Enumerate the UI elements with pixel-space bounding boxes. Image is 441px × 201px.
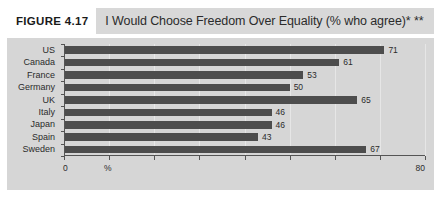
bar-row: 61 — [64, 56, 425, 68]
y-axis-tick — [61, 144, 64, 145]
y-axis-tick — [61, 119, 64, 120]
bar-row: 67 — [64, 144, 425, 156]
bar-value-label: 50 — [294, 83, 303, 92]
bar-value-label: 53 — [307, 71, 316, 80]
bar-row: 46 — [64, 119, 425, 131]
bar-row: 65 — [64, 94, 425, 106]
y-axis-category-label: Germany — [18, 83, 55, 92]
y-axis-category-label: Japan — [30, 120, 55, 129]
bar-row: 50 — [64, 81, 425, 93]
gridline — [425, 44, 426, 156]
figure-footnote — [7, 193, 434, 200]
x-axis-max-label: 80 — [416, 164, 425, 173]
bar-value-label: 61 — [343, 58, 352, 67]
y-axis-tick — [61, 44, 64, 45]
y-axis-category-label: France — [27, 71, 55, 80]
y-axis-tick — [61, 69, 64, 70]
bar-value-label: 43 — [262, 133, 271, 142]
bar — [64, 84, 290, 92]
bar — [64, 46, 384, 54]
bar — [64, 71, 303, 79]
bar-row: 43 — [64, 131, 425, 143]
figure-number-label: FIGURE 4.17 — [7, 8, 96, 34]
x-axis-tick — [425, 156, 426, 160]
y-axis-labels: USCanadaFranceGermanyUKItalyJapanSpainSw… — [7, 44, 60, 156]
y-axis-tick — [61, 81, 64, 82]
bar-value-label: 46 — [276, 108, 285, 117]
bar — [64, 146, 366, 154]
bar-row: 71 — [64, 44, 425, 56]
plot-area: 716153506546464367 % 0 80 — [64, 44, 425, 178]
x-axis-tick — [335, 156, 336, 160]
y-axis-tick — [61, 131, 64, 132]
y-axis-category-label: Spain — [32, 133, 55, 142]
figure-container: FIGURE 4.17 I Would Choose Freedom Over … — [0, 0, 441, 201]
figure-header: FIGURE 4.17 I Would Choose Freedom Over … — [7, 8, 434, 34]
y-axis-tick — [61, 56, 64, 57]
bar — [64, 59, 339, 67]
bar-rows: 716153506546464367 — [64, 44, 425, 156]
y-axis-tick — [61, 94, 64, 95]
y-axis-category-label: Sweden — [22, 145, 55, 154]
x-axis-tick — [290, 156, 291, 160]
x-axis-tick — [380, 156, 381, 160]
x-axis-percent-symbol: % — [104, 164, 112, 173]
bar — [64, 109, 272, 117]
y-axis-category-label: UK — [42, 96, 55, 105]
y-axis-line — [64, 44, 65, 156]
y-axis-category-label: US — [42, 46, 55, 55]
x-axis-min-label: 0 — [63, 164, 68, 173]
x-axis-tick — [109, 156, 110, 160]
x-axis-tick — [199, 156, 200, 160]
figure-title: I Would Choose Freedom Over Equality (% … — [96, 14, 423, 28]
bar-value-label: 46 — [276, 121, 285, 130]
y-axis-category-label: Canada — [23, 58, 55, 67]
bar — [64, 133, 258, 141]
y-axis-category-label: Italy — [38, 108, 55, 117]
bar — [64, 96, 357, 104]
y-axis-tick — [61, 106, 64, 107]
x-axis-tick — [245, 156, 246, 160]
bar-row: 53 — [64, 69, 425, 81]
x-axis-tick — [154, 156, 155, 160]
bar-row: 46 — [64, 106, 425, 118]
x-axis-tick — [64, 156, 65, 160]
bar — [64, 121, 272, 129]
chart-panel: USCanadaFranceGermanyUKItalyJapanSpainSw… — [7, 38, 434, 190]
bar-value-label: 67 — [370, 145, 379, 154]
bar-value-label: 71 — [388, 46, 397, 55]
bar-value-label: 65 — [361, 96, 370, 105]
